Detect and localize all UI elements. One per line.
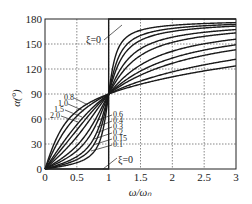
label-xi0-top: ξ=0 [86, 34, 101, 46]
x-tick-label: 2.5 [197, 171, 211, 183]
y-tick-label: 60 [31, 113, 43, 125]
x-tick-label: 1.5 [134, 171, 148, 183]
y-tick-label: 120 [26, 63, 43, 75]
phase-response-chart: 0306090120150180 00.511.522.53 α(°) ω/ωₙ… [0, 0, 252, 204]
x-axis-label: ω/ωₙ [129, 186, 153, 198]
label-xi-0.1: 0.1 [113, 140, 123, 149]
y-axis-label: α(°) [10, 89, 23, 107]
label-xi0-bottom: ξ=0 [118, 154, 133, 166]
x-tick-label: 0.5 [70, 171, 84, 183]
leader-xi0-top [104, 25, 122, 40]
y-tick-label: 30 [31, 138, 43, 150]
y-tick-label: 180 [26, 13, 43, 25]
y-tick-label: 90 [31, 88, 43, 100]
leader-xi0-bottom [103, 158, 117, 169]
x-tick-labels: 00.511.522.53 [42, 171, 239, 183]
y-tick-labels: 0306090120150180 [26, 13, 43, 175]
x-tick-label: 3 [233, 171, 239, 183]
leader-line [74, 98, 88, 105]
x-tick-label: 0 [42, 171, 48, 183]
label-xi-2.0: 2.0 [50, 111, 60, 120]
x-tick-label: 1 [106, 171, 112, 183]
y-tick-label: 150 [26, 38, 43, 50]
x-tick-label: 2 [170, 171, 176, 183]
